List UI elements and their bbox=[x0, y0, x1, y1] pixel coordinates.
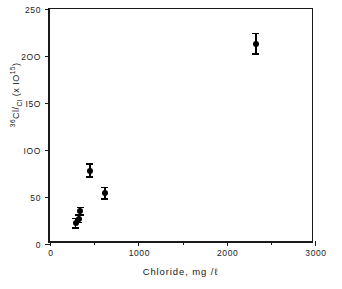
data-point-marker bbox=[87, 168, 93, 174]
y-axis-tick: 2OO bbox=[45, 56, 50, 57]
error-bar-cap bbox=[77, 214, 84, 216]
x-axis-minor-tick bbox=[94, 241, 95, 245]
x-axis-minor-tick bbox=[271, 241, 272, 245]
error-bar-cap bbox=[75, 222, 82, 224]
chlorine-36-scatter-figure: 050IOOI5O2OO250 0100020003000 Chloride, … bbox=[0, 0, 342, 289]
x-axis-title-text: Chloride, mg /ℓ bbox=[143, 266, 219, 277]
x-axis-tick: 2000 bbox=[227, 241, 228, 246]
x-axis-tick-label: 1000 bbox=[129, 248, 150, 258]
x-axis-tick-label: 0 bbox=[48, 248, 53, 258]
error-bar-cap bbox=[101, 187, 108, 189]
x-axis-tick-label: 2000 bbox=[217, 248, 238, 258]
error-bar-cap bbox=[101, 198, 108, 200]
y-axis-tick-label: 50 bbox=[30, 193, 41, 203]
y-axis-tick: 250 bbox=[45, 9, 50, 10]
y-axis-title-sub: Cl bbox=[16, 99, 23, 106]
y-axis-tick-label: IOO bbox=[24, 146, 41, 156]
error-bar-cap bbox=[86, 163, 93, 165]
x-axis-tick: 1000 bbox=[138, 241, 139, 246]
data-point-marker bbox=[76, 216, 82, 222]
y-axis-tick-label: I5O bbox=[25, 99, 41, 109]
error-bar-cap bbox=[72, 227, 79, 229]
plot-area: 050IOOI5O2OO250 0100020003000 bbox=[48, 8, 313, 243]
y-axis-tick-label: 0 bbox=[36, 240, 41, 250]
y-axis-tick-label: 250 bbox=[25, 5, 41, 15]
x-axis-minor-tick bbox=[183, 241, 184, 245]
y-axis-title-exponent: 15 bbox=[9, 66, 16, 74]
y-axis-tick: 50 bbox=[45, 197, 50, 198]
y-axis-title: 36Cl/Cl (x IO15) bbox=[9, 35, 23, 155]
data-point-marker bbox=[102, 190, 108, 196]
x-axis-tick: 3000 bbox=[315, 241, 316, 246]
error-bar-cap bbox=[252, 53, 259, 55]
y-axis-title-close: ) bbox=[11, 63, 21, 67]
y-axis-tick-label: 2OO bbox=[21, 52, 41, 62]
error-bar-cap bbox=[252, 33, 259, 35]
y-axis-title-isotope: 36 bbox=[9, 119, 16, 127]
y-axis-title-scale: (x IO bbox=[11, 74, 21, 96]
y-axis-tick: I5O bbox=[45, 103, 50, 104]
y-axis-title-main: Cl/ bbox=[11, 106, 21, 119]
y-axis-tick: IOO bbox=[45, 150, 50, 151]
x-axis-tick: 0 bbox=[50, 241, 51, 246]
error-bar-cap bbox=[86, 176, 93, 178]
data-point-marker bbox=[253, 41, 259, 47]
x-axis-tick-label: 3000 bbox=[305, 248, 326, 258]
x-axis-title: Chloride, mg /ℓ bbox=[48, 266, 313, 277]
